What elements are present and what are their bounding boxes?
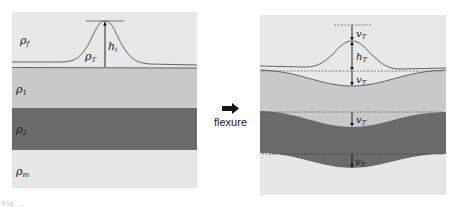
flexure-diagram: ρf ρT hi ρ1 ρ2 ρm flexure vT hT [0,0,457,207]
mantle-layer [12,150,197,188]
right-panel: vT hT vT vT vT [260,15,446,195]
left-panel: ρf ρT hi ρ1 ρ2 ρm [12,12,197,188]
flexure-label: flexure [214,116,247,128]
fluid-layer [12,12,197,68]
figure-caption: Fig. ... [2,199,24,207]
layer-1 [12,68,197,108]
right-arrow-icon [222,103,239,114]
layer-2 [12,108,197,150]
flexure-transition: flexure [214,103,247,128]
base-line [12,68,197,69]
